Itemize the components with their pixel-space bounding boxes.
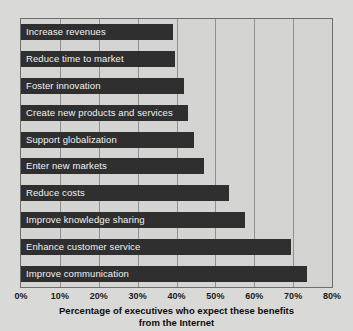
axis-caption: Percentage of executives who expect thes… (0, 305, 353, 328)
x-tick-70%: 70% (284, 291, 302, 301)
bar-label: Enter new markets (26, 158, 107, 174)
bar-row: Enhance customer service (21, 239, 332, 255)
x-tick-60%: 60% (245, 291, 263, 301)
plot-area: Increase revenuesReduce time to marketFo… (20, 18, 333, 288)
bar-label: Support globalization (26, 132, 117, 148)
caption-line-2: from the Internet (0, 317, 353, 329)
bars-layer: Increase revenuesReduce time to marketFo… (21, 19, 332, 287)
bar-row: Enter new markets (21, 158, 332, 174)
bar-row: Improve communication (21, 266, 332, 282)
x-tick-0%: 0% (14, 291, 27, 301)
bar-label: Foster innovation (26, 78, 101, 94)
bar-label: Increase revenues (26, 24, 106, 40)
bar-row: Improve knowledge sharing (21, 212, 332, 228)
x-tick-30%: 30% (129, 291, 147, 301)
x-tick-20%: 20% (90, 291, 108, 301)
bar-label: Enhance customer service (26, 239, 140, 255)
bar-label: Reduce costs (26, 185, 85, 201)
bar-label: Create new products and services (26, 105, 173, 121)
x-tick-10%: 10% (51, 291, 69, 301)
bar-row: Reduce costs (21, 185, 332, 201)
x-tick-50%: 50% (206, 291, 224, 301)
bar-row: Reduce time to market (21, 51, 332, 67)
bar-row: Increase revenues (21, 24, 332, 40)
chart-screenshot: Increase revenuesReduce time to marketFo… (0, 0, 353, 331)
bar-row: Support globalization (21, 132, 332, 148)
x-tick-80%: 80% (323, 291, 341, 301)
bar-label: Reduce time to market (26, 51, 124, 67)
bar-row: Foster innovation (21, 78, 332, 94)
bar-label: Improve knowledge sharing (26, 212, 145, 228)
x-tick-40%: 40% (167, 291, 185, 301)
caption-line-1: Percentage of executives who expect thes… (0, 305, 353, 317)
bar-row: Create new products and services (21, 105, 332, 121)
bar-label: Improve communication (26, 266, 129, 282)
